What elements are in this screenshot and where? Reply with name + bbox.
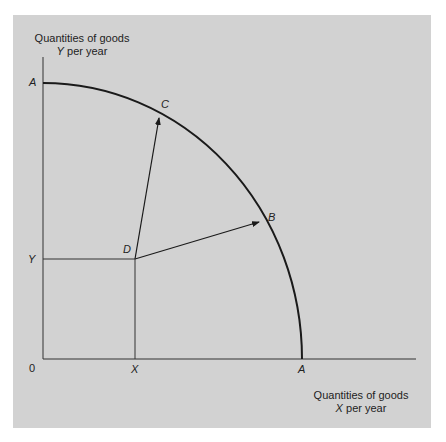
- label-origin: 0: [29, 362, 35, 374]
- label-x-intercept-a: A: [298, 363, 305, 375]
- label-y-intercept-a: A: [29, 76, 36, 88]
- x-axis-title-line1: Quantities of goods: [302, 389, 420, 402]
- x-axis-var: X: [336, 402, 343, 414]
- y-axis-title-line2: Y per year: [27, 45, 137, 58]
- arrow-d-to-c: [135, 118, 159, 259]
- label-x-level: X: [131, 363, 138, 375]
- label-y-level: Y: [28, 253, 35, 265]
- y-axis-var: Y: [57, 45, 64, 57]
- y-axis-title-line1: Quantities of goods: [27, 32, 137, 45]
- label-point-b: B: [268, 211, 275, 223]
- ppf-diagram: [0, 0, 446, 442]
- y-axis-title: Quantities of goods Y per year: [27, 32, 137, 58]
- y-axis-unit: per year: [64, 45, 107, 57]
- label-point-d: D: [123, 243, 131, 255]
- label-point-c: C: [161, 98, 169, 110]
- x-axis-title: Quantities of goods X per year: [302, 389, 420, 415]
- x-axis-title-line2: X per year: [302, 402, 420, 415]
- x-axis-unit: per year: [343, 402, 386, 414]
- frontier-curve: [43, 83, 302, 359]
- arrow-d-to-b: [135, 222, 259, 259]
